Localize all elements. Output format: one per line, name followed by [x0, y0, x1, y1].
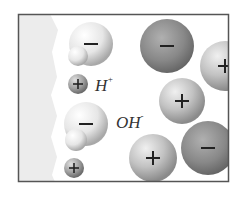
h-plus-ion — [68, 74, 88, 94]
water-hydrogen-2 — [65, 129, 87, 151]
cation-2 — [159, 78, 205, 124]
plus-ion-small — [64, 158, 84, 178]
anion-2 — [181, 121, 235, 175]
diagram-canvas — [0, 0, 245, 201]
anion-1 — [140, 19, 194, 73]
water-hydrogen-1 — [68, 46, 88, 66]
label-oh-minus: OH- — [116, 114, 144, 131]
cation-3 — [129, 134, 177, 182]
double-layer-diagram: H+ OH- — [0, 0, 245, 201]
label-h-plus: H+ — [95, 77, 113, 94]
